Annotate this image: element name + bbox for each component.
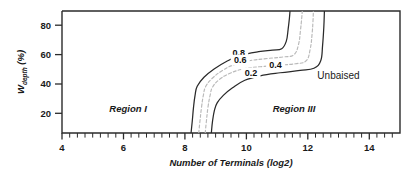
- y-axis-title-subscript: depth: [21, 67, 29, 85]
- x-tick-label-6: 6: [121, 142, 126, 153]
- annotations-group: Region I Region III Unbaised: [109, 70, 359, 114]
- y-tick-label-80: 80: [40, 20, 51, 31]
- x-axis-title: Number of Terminals (log2): [169, 157, 292, 168]
- contour-label-0.4: 0.4: [269, 60, 282, 70]
- contour-line-0.2: [211, 11, 324, 133]
- x-tick-label-12: 12: [303, 142, 314, 153]
- x-tick-label-4: 4: [59, 142, 65, 153]
- contour-plot-figure: 80 60 40 20 Wdepth (%): [0, 0, 420, 181]
- y-axis-ticks: [55, 25, 62, 113]
- contour-label-0.6: 0.6: [234, 55, 247, 65]
- x-tick-label-8: 8: [182, 142, 187, 153]
- x-axis-tick-labels: 4 6 8 10 12 14: [59, 142, 375, 153]
- region-iii-label: Region III: [273, 103, 316, 114]
- y-tick-label-40: 40: [40, 78, 51, 89]
- unbaised-label: Unbaised: [317, 70, 359, 81]
- y-axis-title-unit: (%): [15, 50, 26, 65]
- y-tick-label-60: 60: [40, 49, 51, 60]
- x-tick-label-14: 14: [364, 142, 375, 153]
- region-i-label: Region I: [109, 103, 147, 114]
- y-axis-tick-labels: 80 60 40 20: [40, 20, 51, 119]
- svg-text:Wdepth (%): Wdepth (%): [15, 50, 29, 94]
- contour-label-0.2-group: 0.2: [242, 68, 261, 78]
- contour-label-0.6-group: 0.6: [231, 55, 250, 65]
- x-tick-label-10: 10: [241, 142, 252, 153]
- y-tick-label-20: 20: [40, 108, 51, 119]
- contour-line-0.8: [191, 11, 290, 133]
- plot-svg: 80 60 40 20 Wdepth (%): [0, 0, 420, 181]
- contour-label-0.4-group: 0.4: [266, 60, 285, 70]
- contour-label-0.2: 0.2: [245, 68, 258, 78]
- y-axis-title: Wdepth (%): [15, 50, 29, 94]
